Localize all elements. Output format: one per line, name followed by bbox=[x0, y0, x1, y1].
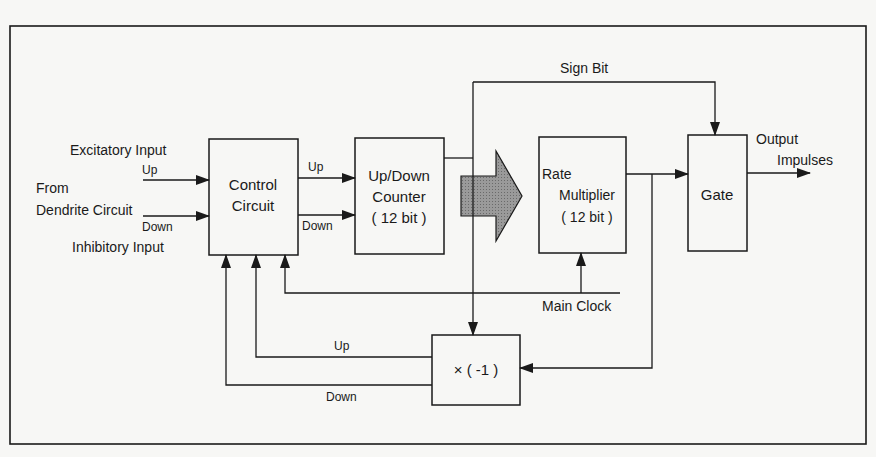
rate-multiplier-label-2: Multiplier bbox=[559, 187, 615, 203]
bus-arrow-icon bbox=[461, 151, 522, 241]
figure-frame bbox=[10, 26, 866, 444]
inhibitory-input-label: Inhibitory Input bbox=[72, 239, 164, 255]
excitatory-input-label: Excitatory Input bbox=[70, 142, 167, 158]
in-down-label: Down bbox=[142, 220, 173, 234]
cc-up-label: Up bbox=[308, 160, 324, 174]
dendrite-circuit-label: Dendrite Circuit bbox=[36, 202, 133, 218]
cc-down-label: Down bbox=[302, 219, 333, 233]
control-circuit-label: Control bbox=[229, 176, 277, 193]
sign-bit-line bbox=[473, 82, 715, 135]
impulses-label: Impulses bbox=[777, 152, 833, 168]
counter-label-3: ( 12 bit ) bbox=[371, 209, 426, 226]
main-clock-label: Main Clock bbox=[542, 298, 612, 314]
from-label: From bbox=[36, 180, 69, 196]
block-diagram: Control Circuit Up/Down Counter ( 12 bit… bbox=[0, 0, 876, 457]
fb-down-label: Down bbox=[326, 390, 357, 404]
sign-bit-label: Sign Bit bbox=[560, 60, 608, 76]
in-up-label: Up bbox=[142, 163, 158, 177]
feedback-down-line bbox=[226, 255, 432, 385]
rate-multiplier-label: Rate bbox=[542, 166, 572, 182]
control-circuit-label-2: Circuit bbox=[232, 197, 275, 214]
counter-label: Up/Down bbox=[368, 167, 430, 184]
negate-label: × ( -1 ) bbox=[454, 361, 499, 378]
fb-up-label: Up bbox=[334, 339, 350, 353]
gate-label: Gate bbox=[701, 186, 734, 203]
rate-feedback-line bbox=[520, 174, 652, 368]
main-clock-line bbox=[285, 255, 620, 293]
counter-label-2: Counter bbox=[372, 188, 425, 205]
output-label: Output bbox=[756, 131, 798, 147]
rate-multiplier-label-3: ( 12 bit ) bbox=[561, 209, 612, 225]
